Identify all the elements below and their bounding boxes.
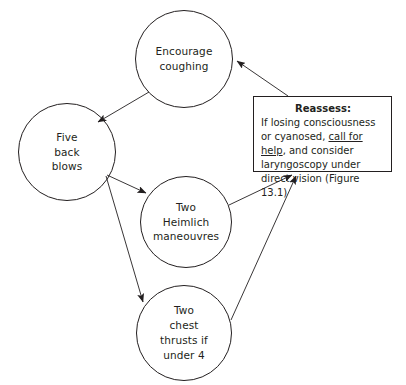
node-two-heimlich-maneouvres[interactable]: Two Heimlich maneouvres <box>140 176 232 268</box>
edge-backblows-to-chestthrusts <box>106 176 143 302</box>
reassess-title: Reassess: <box>261 102 385 115</box>
reassess-line-2-suffix: , and <box>283 145 308 156</box>
reassess-body: If losing consciousness or cyanosed, cal… <box>261 116 385 200</box>
node-five-back-blows-label: Five back blows <box>52 130 83 175</box>
reassess-line-2-prefix: cyanosed, <box>274 131 328 142</box>
edge-reassess-to-encourage <box>237 61 288 96</box>
reassess-line-4: direct vision (Figure 13.1) <box>261 173 360 198</box>
node-two-heimlich-maneouvres-label: Two Heimlich maneouvres <box>153 200 219 245</box>
edge-encourage-to-backblows <box>98 92 149 122</box>
node-five-back-blows[interactable]: Five back blows <box>18 103 116 201</box>
node-encourage-coughing[interactable]: Encourage coughing <box>135 10 233 108</box>
edge-backblows-to-heimlich <box>107 175 146 193</box>
flowchart-figure: Encourage coughing Five back blows Two H… <box>0 0 406 385</box>
reassess-callout-box[interactable]: Reassess: If losing consciousness or cya… <box>253 96 392 172</box>
node-encourage-coughing-label: Encourage coughing <box>156 44 213 74</box>
node-two-chest-thrusts-label: Two chest thrusts if under 4 <box>160 303 208 363</box>
node-two-chest-thrusts[interactable]: Two chest thrusts if under 4 <box>136 285 232 381</box>
